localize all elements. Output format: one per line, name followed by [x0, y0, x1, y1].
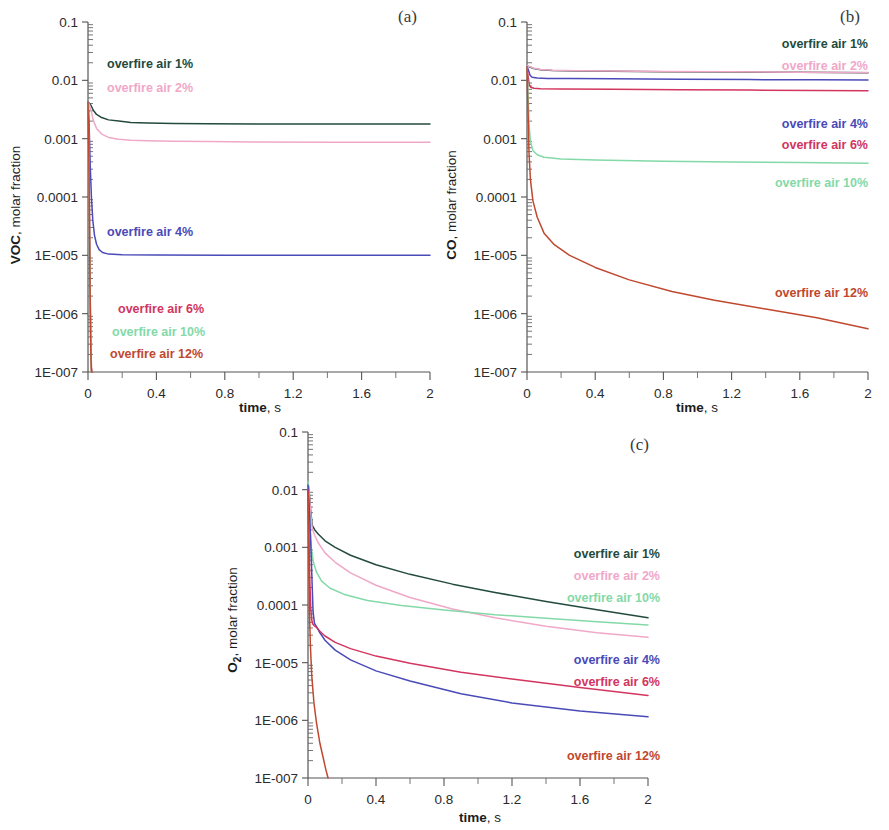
x-tick-label: 1.2	[284, 386, 303, 401]
x-tick-label: 1.6	[571, 792, 590, 807]
y-tick-label: 0.01	[491, 73, 517, 88]
legend-label-p12: overfire air 12%	[110, 347, 203, 361]
legend-label-p10: overfire air 10%	[567, 591, 660, 605]
panel-o2: 0.10.010.0010.00011E-0051E-0061E-00700.4…	[220, 420, 680, 830]
y-tick-label: 1E-005	[34, 248, 78, 263]
x-tick-label: 0.8	[215, 386, 234, 401]
panel-voc: 0.10.010.0010.00011E-0051E-0061E-00700.4…	[0, 0, 450, 420]
legend-label-p4: overfire air 4%	[574, 653, 660, 667]
x-tick-label: 0.4	[367, 792, 386, 807]
panel-a-legend: overfire air 1%overfire air 2%overfire a…	[107, 57, 205, 361]
panel-c-curves	[308, 481, 648, 778]
y-tick-label: 1E-005	[254, 656, 298, 671]
x-tick-label: 2	[864, 386, 872, 401]
panel-a-tag: (a)	[398, 7, 417, 26]
y-tick-label: 0.0001	[257, 598, 298, 613]
y-tick-label: 1E-006	[34, 307, 78, 322]
y-tick-label: 1E-006	[473, 307, 517, 322]
x-tick-label: 0.8	[435, 792, 454, 807]
panel-a-xlabel: time, s	[239, 400, 281, 415]
y-tick-label: 0.0001	[37, 190, 78, 205]
panel-b-ylabel: CO, molar fraction	[444, 150, 459, 260]
y-tick-label: 0.01	[272, 483, 298, 498]
panel-co-svg: 0.10.010.0010.00011E-0051E-0061E-00700.4…	[442, 0, 889, 420]
x-tick-label: 0	[304, 792, 312, 807]
x-tick-label: 0.8	[654, 386, 673, 401]
legend-label-p10: overfire air 10%	[112, 325, 205, 339]
x-tick-label: 1.6	[352, 386, 371, 401]
legend-label-p1: overfire air 1%	[574, 547, 660, 561]
y-tick-label: 0.1	[279, 425, 298, 440]
panel-b-legend: overfire air 1%overfire air 2%overfire a…	[775, 37, 868, 300]
x-tick-label: 1.2	[503, 792, 522, 807]
legend-label-p10: overfire air 10%	[775, 176, 868, 190]
legend-label-p4: overfire air 4%	[107, 225, 193, 239]
y-tick-label: 0.001	[44, 132, 78, 147]
y-tick-label: 1E-006	[254, 713, 298, 728]
legend-label-p4: overfire air 4%	[782, 117, 868, 131]
x-tick-label: 1.2	[722, 386, 741, 401]
panel-c-legend: overfire air 1%overfire air 2%overfire a…	[567, 547, 660, 763]
panel-c-tag: (c)	[630, 435, 649, 454]
x-tick-label: 2	[426, 386, 434, 401]
x-tick-label: 1.6	[790, 386, 809, 401]
y-tick-label: 0.01	[52, 73, 78, 88]
y-tick-label: 0.001	[483, 132, 517, 147]
legend-label-p2: overfire air 2%	[782, 59, 868, 73]
y-tick-label: 0.1	[59, 15, 78, 30]
legend-label-p1: overfire air 1%	[782, 37, 868, 51]
legend-label-p2: overfire air 2%	[574, 569, 660, 583]
panel-a-axes: 0.10.010.0010.00011E-0051E-0061E-00700.4…	[34, 15, 433, 401]
y-tick-label: 1E-007	[34, 365, 78, 380]
legend-label-p6: overfire air 6%	[782, 138, 868, 152]
legend-label-p2: overfire air 2%	[107, 81, 193, 95]
panel-c-ylabel: O2, molar fraction	[225, 567, 243, 672]
panel-b-xlabel: time, s	[676, 400, 718, 415]
legend-label-p1: overfire air 1%	[107, 57, 193, 71]
panel-voc-svg: 0.10.010.0010.00011E-0051E-0061E-00700.4…	[0, 0, 450, 420]
legend-label-p6: overfire air 6%	[574, 675, 660, 689]
panel-a-ylabel: VOC, molar fraction	[8, 146, 23, 265]
x-tick-label: 2	[644, 792, 652, 807]
y-tick-label: 0.001	[264, 540, 298, 555]
x-tick-label: 0.4	[586, 386, 605, 401]
curve-overfire-air-1-	[88, 102, 430, 124]
panel-o2-svg: 0.10.010.0010.00011E-0051E-0061E-00700.4…	[220, 420, 680, 830]
legend-label-p12: overfire air 12%	[775, 286, 868, 300]
y-tick-label: 0.1	[498, 15, 517, 30]
y-tick-label: 0.0001	[476, 190, 517, 205]
y-tick-label: 1E-007	[254, 771, 298, 786]
x-tick-label: 0	[84, 386, 92, 401]
y-tick-label: 1E-007	[473, 365, 517, 380]
x-tick-label: 0.4	[147, 386, 166, 401]
panel-co: 0.10.010.0010.00011E-0051E-0061E-00700.4…	[442, 0, 889, 420]
y-tick-label: 1E-005	[473, 248, 517, 263]
panel-c-xlabel: time, s	[459, 810, 501, 825]
legend-label-p6: overfire air 6%	[118, 302, 204, 316]
panel-b-tag: (b)	[840, 7, 860, 26]
x-tick-label: 0	[523, 386, 531, 401]
legend-label-p12: overfire air 12%	[567, 749, 660, 763]
